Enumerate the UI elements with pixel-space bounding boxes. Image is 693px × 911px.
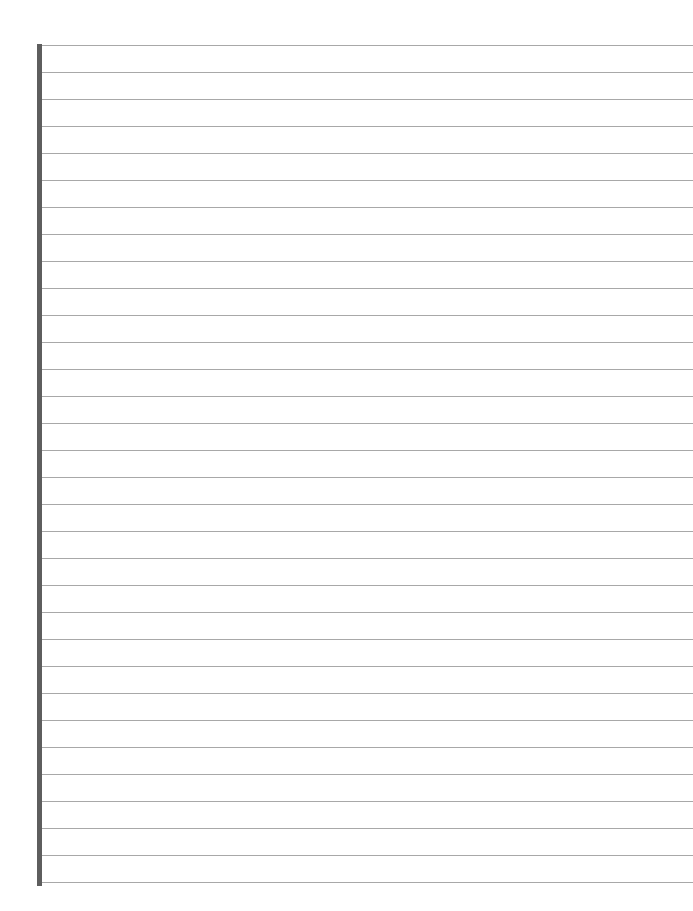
rule-line (42, 342, 693, 343)
rule-line (42, 585, 693, 586)
rule-line (42, 504, 693, 505)
rule-line (42, 477, 693, 478)
rule-line (42, 126, 693, 127)
rule-line (42, 369, 693, 370)
rule-line (42, 693, 693, 694)
rule-line (42, 423, 693, 424)
rule-line (42, 828, 693, 829)
rule-line (42, 45, 693, 46)
rule-line (42, 882, 693, 883)
rule-line (42, 261, 693, 262)
rule-line (42, 207, 693, 208)
rule-line (42, 666, 693, 667)
rule-line (42, 99, 693, 100)
rule-line (42, 774, 693, 775)
rule-line (42, 153, 693, 154)
rule-line (42, 639, 693, 640)
rule-line (42, 72, 693, 73)
rule-line (42, 558, 693, 559)
lined-paper (37, 44, 693, 886)
rule-line (42, 180, 693, 181)
rule-line (42, 801, 693, 802)
rule-line (42, 612, 693, 613)
rule-line (42, 450, 693, 451)
rule-line (42, 531, 693, 532)
rule-line (42, 747, 693, 748)
rule-line (42, 396, 693, 397)
rule-line (42, 720, 693, 721)
margin-bar (37, 44, 42, 886)
rule-line (42, 234, 693, 235)
rule-line (42, 315, 693, 316)
rule-line (42, 855, 693, 856)
rule-line (42, 288, 693, 289)
